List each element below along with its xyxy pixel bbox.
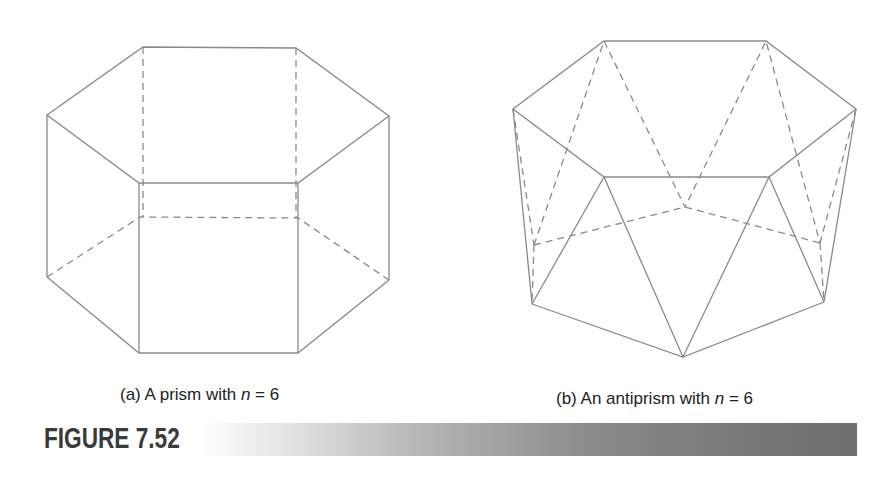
caption-prism-text: (a) A prism with [120,385,241,404]
caption-antiprism-variable: n [715,389,724,408]
caption-prism: (a) A prism with n = 6 [120,385,279,405]
antiprism-diagram [513,41,856,357]
prism-hidden-edges [47,47,389,280]
prism-top-face [47,47,389,183]
antiprism-bottom-edges [532,302,824,357]
figure-label: FIGURE 7.52 [44,420,180,456]
antiprism-top-face [513,41,856,177]
caption-antiprism-text: (b) An antiprism with [556,389,715,408]
caption-prism-value: = 6 [250,385,279,404]
figure-diagrams [0,0,896,482]
caption-antiprism: (b) An antiprism with n = 6 [556,389,753,409]
caption-antiprism-value: = 6 [724,389,753,408]
antiprism-hidden-edges [513,41,856,304]
figure-gradient-bar [200,423,857,456]
prism-diagram [47,47,389,353]
prism-bottom-edges [47,277,389,353]
caption-prism-variable: n [241,385,250,404]
